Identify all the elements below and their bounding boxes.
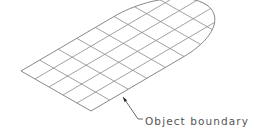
leader-line — [123, 97, 143, 119]
mesh-line — [40, 60, 110, 100]
mesh-line — [95, 27, 165, 67]
mesh-line — [133, 6, 203, 46]
mesh-line — [35, 0, 193, 79]
mesh-line — [58, 49, 128, 89]
object-boundary-outline — [21, 0, 215, 111]
arrow-head-icon — [123, 97, 127, 102]
diagram-canvas: Object boundary — [0, 0, 261, 135]
object-boundary-label: Object boundary — [145, 114, 249, 128]
mesh-line — [114, 17, 184, 57]
mesh-line — [77, 38, 147, 78]
mesh-grid — [35, 0, 240, 103]
